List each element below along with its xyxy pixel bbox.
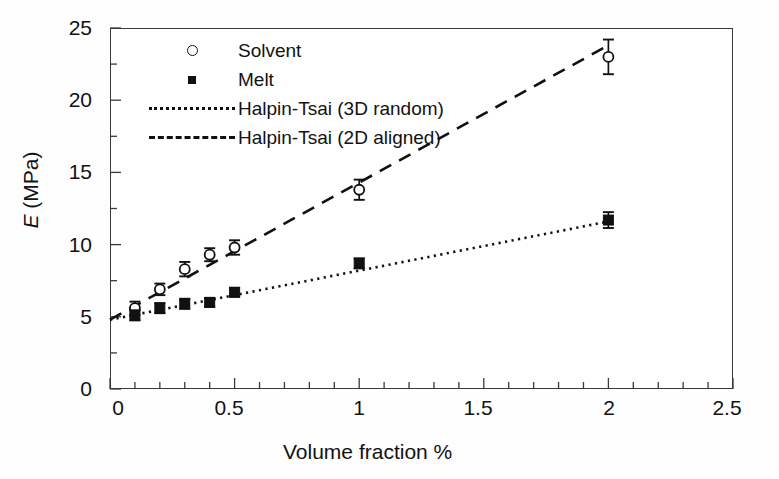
filled-square-marker-icon: [146, 76, 238, 84]
legend-item-solvent: Solvent: [146, 38, 456, 63]
y-tick-label: 15: [48, 160, 92, 184]
legend-item-melt: Melt: [146, 67, 456, 92]
y-axis-symbol: E: [19, 215, 42, 229]
x-tick-label: 2.5: [707, 396, 747, 420]
legend-label: Halpin-Tsai (3D random): [238, 98, 444, 120]
y-tick-label: 10: [48, 233, 92, 257]
x-tick-label: 2: [594, 396, 624, 420]
y-tick-label: 20: [48, 88, 92, 112]
open-circle-marker-icon: [146, 45, 238, 56]
y-tick-label: 0: [48, 377, 92, 401]
x-axis-title: Volume fraction %: [283, 440, 452, 464]
legend: Solvent Melt Halpin-Tsai (3D random) Hal…: [146, 38, 456, 154]
y-tick-label: 5: [48, 305, 92, 329]
dotted-line-icon: [146, 107, 238, 110]
legend-item-halpin-tsai-2d-aligned: Halpin-Tsai (2D aligned): [146, 125, 456, 150]
figure-canvas: 25 20 15 10 5 0 0 0.5 1 1.5 2 2.5 E (MPa…: [0, 0, 779, 479]
dashed-line-icon: [146, 136, 238, 139]
y-axis-unit: (MPa): [19, 152, 42, 215]
x-tick-label: 0: [103, 396, 133, 420]
x-tick-label: 1: [344, 396, 374, 420]
legend-item-halpin-tsai-3d-random: Halpin-Tsai (3D random): [146, 96, 456, 121]
x-tick-label: 1.5: [458, 396, 498, 420]
legend-label: Halpin-Tsai (2D aligned): [238, 127, 441, 149]
y-tick-label: 25: [48, 16, 92, 40]
x-tick-label: 0.5: [209, 396, 249, 420]
y-axis-title: E (MPa): [19, 115, 43, 265]
legend-label: Solvent: [238, 40, 301, 62]
legend-label: Melt: [238, 69, 274, 91]
